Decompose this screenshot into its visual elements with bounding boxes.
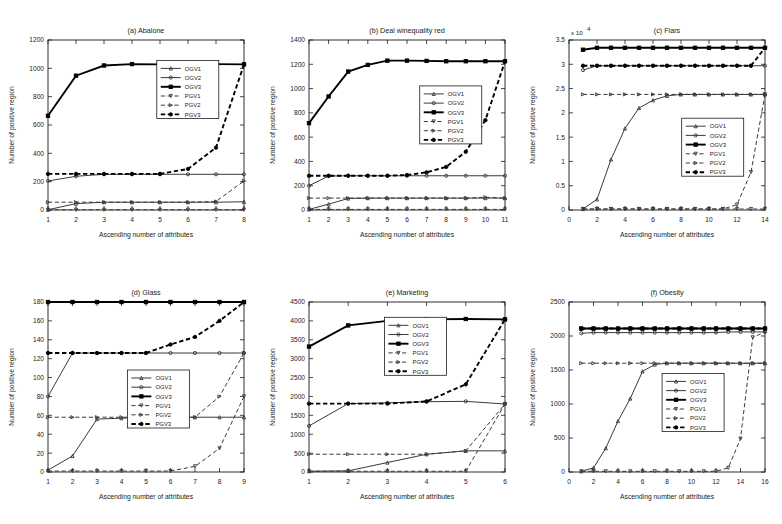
x-tick-label: 5 xyxy=(385,216,389,223)
y-axis-label: Number of positive region xyxy=(269,348,277,426)
x-tick-label: 8 xyxy=(444,216,448,223)
y-tick-label: 2.5 xyxy=(556,85,565,92)
legend-label-pgv3: PGV3 xyxy=(412,369,428,375)
y-tick-label: 1200 xyxy=(29,36,44,43)
x-tick-label: 7 xyxy=(424,216,428,223)
x-tick-label: 14 xyxy=(762,216,770,223)
legend-label-ogv1: OGV1 xyxy=(185,66,201,72)
x-axis-label: Ascending number of attributes xyxy=(99,493,194,501)
y-axis-exponent-power: 4 xyxy=(587,25,591,32)
y-tick-label: 1000 xyxy=(551,400,566,407)
y-tick-label: 800 xyxy=(33,93,44,100)
y-axis-label: Number of positive region xyxy=(529,86,537,164)
x-tick-label: 16 xyxy=(762,478,770,485)
y-tick-label: 1500 xyxy=(551,366,566,373)
y-tick-label: 60 xyxy=(37,412,45,419)
legend-label-pgv2: PGV2 xyxy=(710,160,726,166)
x-tick-label: 6 xyxy=(405,216,409,223)
legend-label-ogv3: OGV3 xyxy=(690,397,707,403)
x-tick-label: 3 xyxy=(102,216,106,223)
legend-label-ogv2: OGV2 xyxy=(412,332,428,338)
chart-panel-a: 12345678020040060080010001200(a) Abalone… xyxy=(0,0,261,262)
y-tick-label: 40 xyxy=(37,431,45,438)
y-tick-label: 2 xyxy=(562,109,566,116)
y-tick-label: 4500 xyxy=(290,298,305,305)
legend-label-ogv3: OGV3 xyxy=(185,84,202,90)
chart-panel-e: 1234560500100015002000250030003500400045… xyxy=(261,262,522,524)
y-axis-label: Number of positive region xyxy=(529,348,537,426)
x-tick-label: 5 xyxy=(158,216,162,223)
y-tick-label: 2500 xyxy=(551,298,566,305)
chart-panel-d: 123456789020406080100120140160180(d) Gla… xyxy=(0,262,261,524)
legend: OGV1OGV2OGV3PGV1PGV2PGV3 xyxy=(384,317,446,375)
legend-label-pgv2: PGV2 xyxy=(447,128,463,134)
panel-title: (b) Deal winequality red xyxy=(369,26,445,35)
y-tick-label: 1000 xyxy=(29,65,44,72)
legend-label-pgv2: PGV2 xyxy=(185,102,201,108)
x-tick-label: 6 xyxy=(186,216,190,223)
x-tick-label: 8 xyxy=(679,216,683,223)
x-tick-label: 12 xyxy=(734,216,742,223)
legend-label-pgv1: PGV1 xyxy=(710,151,726,157)
legend-label-ogv2: OGV2 xyxy=(185,75,201,81)
x-tick-label: 1 xyxy=(46,478,50,485)
y-tick-label: 180 xyxy=(33,298,44,305)
x-tick-label: 11 xyxy=(501,216,508,223)
x-tick-label: 8 xyxy=(218,478,222,485)
y-tick-label: 2000 xyxy=(551,332,566,339)
x-tick-label: 4 xyxy=(120,478,124,485)
legend-label-ogv2: OGV2 xyxy=(710,133,726,139)
x-tick-label: 4 xyxy=(366,216,370,223)
y-tick-label: 600 xyxy=(33,121,44,128)
legend-label-ogv1: OGV1 xyxy=(412,323,428,329)
y-tick-label: 3 xyxy=(562,61,566,68)
chart-panel-b: 12345678910110200400600800100012001400(b… xyxy=(261,0,522,262)
x-tick-label: 6 xyxy=(169,478,173,485)
x-tick-label: 4 xyxy=(130,216,134,223)
x-tick-label: 5 xyxy=(464,478,468,485)
legend-label-pgv3: PGV3 xyxy=(185,112,201,118)
x-tick-label: 6 xyxy=(651,216,655,223)
series-pgv3 xyxy=(46,300,245,354)
legend: OGV1OGV2OGV3PGV1PGV2PGV3 xyxy=(419,86,481,144)
y-tick-label: 1000 xyxy=(290,431,305,438)
y-tick-label: 80 xyxy=(37,393,45,400)
x-tick-label: 3 xyxy=(95,478,99,485)
x-tick-label: 2 xyxy=(595,216,599,223)
legend: OGV1OGV2OGV3PGV1PGV2PGV3 xyxy=(127,370,189,428)
x-tick-label: 10 xyxy=(706,216,714,223)
y-tick-label: 0 xyxy=(40,206,44,213)
panel-title: (d) Glass xyxy=(131,288,161,297)
y-tick-label: 2000 xyxy=(290,393,305,400)
y-tick-label: 140 xyxy=(33,336,44,343)
y-tick-label: 20 xyxy=(37,450,45,457)
y-tick-label: 2500 xyxy=(290,374,305,381)
x-tick-label: 9 xyxy=(242,478,246,485)
x-tick-label: 9 xyxy=(464,216,468,223)
series-pgv2 xyxy=(46,179,245,203)
legend-label-pgv1: PGV1 xyxy=(412,350,428,356)
legend-label-pgv1: PGV1 xyxy=(447,119,463,125)
series-ogv3 xyxy=(582,46,767,51)
x-tick-label: 7 xyxy=(193,478,197,485)
legend-label-ogv2: OGV2 xyxy=(690,388,706,394)
series-pgv2 xyxy=(580,362,767,365)
x-tick-label: 1 xyxy=(307,216,311,223)
y-tick-label: 0 xyxy=(40,468,44,475)
legend-label-ogv1: OGV1 xyxy=(690,379,706,385)
x-tick-label: 3 xyxy=(346,216,350,223)
legend-label-pgv2: PGV2 xyxy=(412,359,428,365)
x-tick-label: 10 xyxy=(688,478,696,485)
x-tick-label: 1 xyxy=(46,216,50,223)
x-tick-label: 8 xyxy=(242,216,246,223)
y-axis-label: Number of positive region xyxy=(8,348,16,426)
legend: OGV1OGV2OGV3PGV1PGV2PGV3 xyxy=(662,373,724,431)
legend-label-ogv3: OGV3 xyxy=(710,142,727,148)
y-tick-label: 400 xyxy=(294,158,305,165)
legend-label-ogv3: OGV3 xyxy=(447,110,464,116)
legend-label-pgv1: PGV1 xyxy=(185,93,201,99)
y-tick-label: 400 xyxy=(33,150,44,157)
x-tick-label: 2 xyxy=(326,216,330,223)
x-tick-label: 7 xyxy=(214,216,218,223)
y-tick-label: 1000 xyxy=(290,85,305,92)
